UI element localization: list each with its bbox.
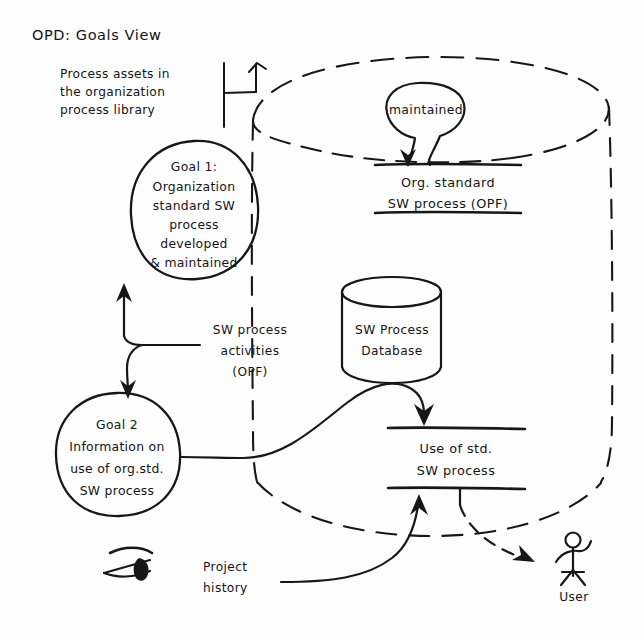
maintained-bubble-label: maintained <box>389 102 463 117</box>
use-of-std-sw-process-label: Use of std. SW process <box>417 441 496 478</box>
use-std-line-2: SW process <box>417 463 496 478</box>
goal-2-line-3: use of org.std. <box>70 461 164 476</box>
db-line-2: Database <box>361 344 422 358</box>
goal-1-line-5: developed <box>160 236 228 251</box>
sw-process-activities-label: SW process activities (OPF) <box>213 323 288 379</box>
project-history-line-1: Project <box>203 560 248 574</box>
project-history-label: Project history <box>203 560 248 595</box>
goal-1-line-3: standard SW <box>153 198 235 213</box>
goal-1-label: Goal 1: Organization standard SW process… <box>150 159 237 270</box>
activities-line-3: (OPF) <box>232 365 267 379</box>
text-layer: OPD: Goals View Process assets in the or… <box>0 0 641 635</box>
boundary-label: Process assets in the organization proce… <box>60 67 170 117</box>
sw-process-database-label: SW Process Database <box>355 323 429 358</box>
db-line-1: SW Process <box>355 323 429 337</box>
page-title: OPD: Goals View <box>32 27 161 43</box>
goal-2-label: Goal 2 Information on use of org.std. SW… <box>69 417 164 498</box>
activities-line-2: activities <box>221 344 280 358</box>
project-history-line-2: history <box>203 581 248 595</box>
goal-1-line-6: & maintained <box>150 255 237 270</box>
goal-2-line-4: SW process <box>80 483 155 498</box>
goal-1-line-4: process <box>169 217 219 232</box>
boundary-label-line-2: the organization <box>60 85 165 99</box>
user-actor-label: User <box>559 590 589 604</box>
use-std-line-1: Use of std. <box>419 441 492 456</box>
boundary-label-line-1: Process assets in <box>60 67 170 81</box>
diagram-canvas: OPD: Goals View Process assets in the or… <box>0 0 641 635</box>
goal-1-line-2: Organization <box>153 179 236 194</box>
boundary-label-line-3: process library <box>60 103 155 117</box>
goal-1-line-1: Goal 1: <box>171 159 217 174</box>
activities-line-1: SW process <box>213 323 288 337</box>
goal-2-line-1: Goal 2 <box>96 417 138 432</box>
org-std-line-1: Org. standard <box>401 175 495 190</box>
org-std-line-2: SW process (OPF) <box>388 196 508 211</box>
org-standard-sw-process-label: Org. standard SW process (OPF) <box>388 175 508 211</box>
goal-2-line-2: Information on <box>69 439 164 454</box>
